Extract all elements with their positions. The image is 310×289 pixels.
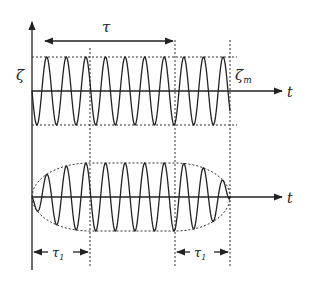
y-axis-label: ζ xyxy=(16,66,25,84)
fall-time-label: τ1 xyxy=(194,245,206,262)
upper-time-label: t xyxy=(287,84,293,100)
lower-time-label: t xyxy=(287,190,293,206)
rise-time-label: τ1 xyxy=(52,245,64,262)
duration-label: τ xyxy=(102,18,111,36)
wave-diagram: ζ τ ζm t t τ1 τ1 xyxy=(0,0,310,289)
diagram-canvas: ζ τ ζm t t τ1 τ1 xyxy=(0,0,310,289)
vertical-guides xyxy=(90,40,230,266)
amplitude-label: ζm xyxy=(235,66,252,85)
